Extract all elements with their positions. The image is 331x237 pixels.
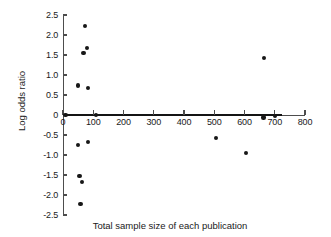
y-tick-label-text: 1.5 (36, 51, 58, 60)
x-tick-mark (304, 110, 305, 115)
x-tick-mark (153, 110, 154, 115)
x-tick-label: 300 (139, 118, 169, 127)
scatter-point (77, 174, 81, 178)
x-tick-label: 200 (109, 118, 139, 127)
y-tick-label-text: -1.5 (36, 171, 58, 180)
scatter-point (214, 136, 218, 140)
y-tick-label: 1.5 (33, 51, 58, 60)
scatter-point (261, 115, 265, 119)
y-tick-mark (63, 214, 67, 215)
scatter-point (86, 86, 90, 90)
y-tick-mark (63, 154, 67, 155)
y-tick-mark (63, 194, 67, 195)
scatter-point (81, 51, 85, 55)
y-tick-label: 2.0 (33, 31, 58, 40)
x-tick-label: 100 (78, 118, 108, 127)
y-tick-label: -1.0 (33, 151, 58, 160)
x-tick-mark (214, 110, 215, 115)
y-tick-label-text: 1.0 (36, 71, 58, 80)
scatter-point (262, 56, 266, 60)
x-tick-label: 800 (290, 118, 320, 127)
y-tick-label: -0.5 (33, 131, 58, 140)
y-tick-label-text: -2.5 (36, 211, 58, 220)
funnel-plot-figure: 2.52.01.51.00.50-0.5-1.0-1.5-2.0-2.5 010… (0, 0, 331, 237)
y-tick-label: -2.5 (33, 211, 58, 220)
y-tick-label: -2.0 (33, 191, 58, 200)
y-axis-title: Log odds ratio (17, 46, 27, 156)
scatter-point (78, 202, 82, 206)
x-tick-label: 600 (230, 118, 260, 127)
x-tick-mark (123, 110, 124, 115)
y-tick-label-text: 2.0 (36, 31, 58, 40)
plot-area: 2.52.01.51.00.50-0.5-1.0-1.5-2.0-2.5 010… (0, 0, 331, 237)
x-tick-label: 400 (169, 118, 199, 127)
y-tick-mark (63, 34, 67, 35)
x-tick-label: 500 (199, 118, 229, 127)
y-tick-mark (63, 14, 67, 15)
x-axis-title: Total sample size of each publication (40, 221, 300, 231)
y-tick-mark (63, 94, 67, 95)
x-tick-label: 0 (48, 118, 78, 127)
y-tick-label-text: -0.5 (36, 131, 58, 140)
y-tick-label: -1.5 (33, 171, 58, 180)
scatter-point (83, 24, 87, 28)
scatter-point (76, 83, 80, 87)
scatter-point (86, 140, 90, 144)
scatter-point (76, 143, 80, 147)
scatter-point (85, 46, 89, 50)
scatter-point (63, 113, 67, 117)
x-tick-mark (244, 110, 245, 115)
y-tick-label: 1.0 (33, 71, 58, 80)
scatter-point (80, 180, 84, 184)
y-tick-mark (63, 54, 67, 55)
y-tick-mark (63, 74, 67, 75)
y-tick-label-text: 2.5 (36, 11, 58, 20)
y-tick-label: 0.5 (33, 91, 58, 100)
y-tick-label-text: 0.5 (36, 91, 58, 100)
y-tick-label-text: -2.0 (36, 191, 58, 200)
y-tick-label: 2.5 (33, 11, 58, 20)
y-tick-mark (63, 134, 67, 135)
y-tick-mark (63, 174, 67, 175)
y-tick-label-text: -1.0 (36, 151, 58, 160)
x-tick-mark (183, 110, 184, 115)
scatter-point (244, 151, 248, 155)
